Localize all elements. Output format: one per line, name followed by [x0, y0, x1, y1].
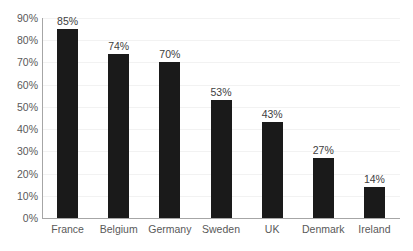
- x-axis-category-labels: FranceBelgiumGermanySwedenUKDenmarkIrela…: [42, 223, 400, 241]
- bar-chart: 90%80%70%60%50%40%30%20%10%0% 85%74%70%5…: [0, 0, 413, 251]
- bar: [313, 158, 334, 218]
- y-axis-tick-label: 80%: [0, 35, 38, 46]
- y-axis-tick-label: 60%: [0, 80, 38, 91]
- bar-value-label: 53%: [210, 86, 231, 98]
- bar-value-label: 14%: [364, 173, 385, 185]
- bar-group: 85%: [57, 18, 78, 218]
- bar: [57, 29, 78, 218]
- x-axis-tick-label: UK: [265, 223, 280, 236]
- bar-group: 27%: [313, 18, 334, 218]
- y-axis-tick-label: 40%: [0, 124, 38, 135]
- y-axis-tick-label: 0%: [0, 213, 38, 224]
- y-axis-tick-label: 20%: [0, 169, 38, 180]
- bar-group: 43%: [262, 18, 283, 218]
- x-axis-tick-label: Germany: [148, 223, 191, 236]
- y-axis-tick-labels: 90%80%70%60%50%40%30%20%10%0%: [0, 0, 38, 251]
- y-axis-tick-label: 10%: [0, 191, 38, 202]
- x-axis-line: [42, 218, 400, 219]
- y-axis-tick-label: 30%: [0, 146, 38, 157]
- x-axis-tick-label: France: [51, 223, 84, 236]
- bar: [262, 122, 283, 218]
- x-axis-tick-label: Sweden: [202, 223, 240, 236]
- bar-value-label: 70%: [159, 48, 180, 60]
- y-axis-tick-label: 90%: [0, 13, 38, 24]
- bar: [364, 187, 385, 218]
- y-axis-tick-label: 70%: [0, 57, 38, 68]
- bar-group: 53%: [211, 18, 232, 218]
- x-axis-tick-label: Denmark: [302, 223, 345, 236]
- y-axis-line: [42, 18, 43, 219]
- bar-value-label: 85%: [57, 15, 78, 27]
- bar: [211, 100, 232, 218]
- bar-value-label: 27%: [313, 144, 334, 156]
- bar-value-label: 74%: [108, 40, 129, 52]
- y-axis-tick-label: 50%: [0, 102, 38, 113]
- bar-value-label: 43%: [262, 108, 283, 120]
- x-axis-tick-label: Ireland: [358, 223, 390, 236]
- plot-area: 85%74%70%53%43%27%14%: [42, 18, 400, 218]
- bar-group: 74%: [108, 18, 129, 218]
- bar: [159, 62, 180, 218]
- bar-group: 70%: [159, 18, 180, 218]
- x-axis-tick-label: Belgium: [100, 223, 138, 236]
- bar-group: 14%: [364, 18, 385, 218]
- bar: [108, 54, 129, 218]
